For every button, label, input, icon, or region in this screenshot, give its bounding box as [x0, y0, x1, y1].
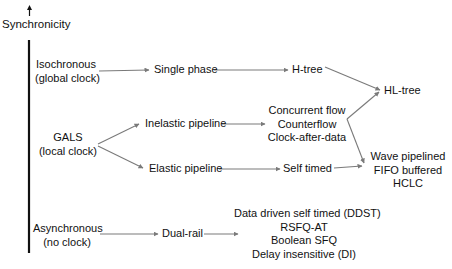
node-inelastic-pipeline: Inelastic pipeline: [145, 117, 226, 131]
gals-subtitle: (local clock): [37, 145, 99, 159]
node-dual-rail: Dual-rail: [162, 227, 203, 241]
node-elastic-pipeline: Elastic pipeline: [149, 162, 222, 176]
arrow-concurrent-hltree: [347, 92, 379, 119]
list-item: Delay insensitive (DI): [234, 248, 374, 262]
node-self-timed: Self timed: [283, 162, 332, 176]
arrow-gals-inelastic: [98, 124, 139, 144]
isochronous-subtitle: (global clock): [35, 72, 97, 86]
category-gals: GALS (local clock): [37, 131, 99, 158]
axis-label: Synchronicity: [2, 18, 70, 32]
list-item: FIFO buffered: [364, 164, 452, 178]
list-item: Counterflow: [267, 118, 347, 132]
asynchronous-name: Asynchronous: [33, 222, 101, 236]
arrow-htree-hltree: [325, 67, 380, 90]
list-item: Concurrent flow: [267, 104, 347, 118]
node-hl-tree: HL-tree: [384, 84, 421, 98]
list-item: RSFQ-AT: [234, 221, 374, 235]
node-wave-group: Wave pipelined FIFO buffered HCLC: [364, 150, 452, 191]
node-async-group: Data driven self timed (DDST) RSFQ-AT Bo…: [234, 207, 374, 261]
list-item: HCLC: [364, 177, 452, 191]
axis-arrow-icon: [27, 5, 32, 10]
arrow-concurrent-wave: [347, 119, 364, 163]
isochronous-name: Isochronous: [35, 58, 97, 72]
node-inelastic-group: Concurrent flow Counterflow Clock-after-…: [267, 104, 347, 145]
arrow-gals-elastic: [98, 146, 143, 168]
asynchronous-subtitle: (no clock): [33, 236, 101, 250]
category-asynchronous: Asynchronous (no clock): [33, 222, 101, 249]
node-h-tree: H-tree: [292, 63, 323, 77]
gals-name: GALS: [37, 131, 99, 145]
arrow-selftimed-wave: [334, 166, 362, 168]
synchronicity-axis: [27, 5, 32, 253]
arrow-iso-single: [99, 70, 149, 71]
list-item: Data driven self timed (DDST): [234, 207, 374, 221]
list-item: Clock-after-data: [267, 131, 347, 145]
node-single-phase: Single phase: [154, 63, 218, 77]
list-item: Boolean SFQ: [234, 234, 374, 248]
category-isochronous: Isochronous (global clock): [35, 58, 97, 85]
list-item: Wave pipelined: [364, 150, 452, 164]
